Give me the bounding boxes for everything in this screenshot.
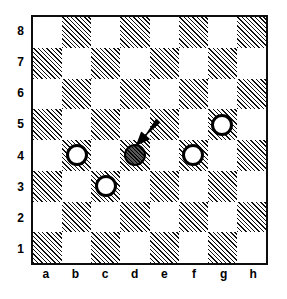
rank-label-1: 1	[12, 234, 29, 265]
board-square-c6[interactable]	[91, 79, 120, 110]
board-square-c5[interactable]	[91, 109, 120, 140]
board-square-b5[interactable]	[62, 109, 91, 140]
checkerboard	[31, 15, 268, 265]
board-square-c2[interactable]	[91, 202, 120, 233]
board-square-e3[interactable]	[150, 171, 179, 202]
piece-white-g5[interactable]	[211, 114, 233, 136]
board-square-f2[interactable]	[179, 202, 208, 233]
file-label-c: c	[90, 268, 120, 288]
board-square-a3[interactable]	[33, 171, 62, 202]
checkers-diagram: 8 7 6 5 4 3 2 1 a b c d e f g h	[0, 0, 287, 299]
board-square-a7[interactable]	[33, 48, 62, 79]
rank-label-3: 3	[12, 171, 29, 202]
board-square-e8[interactable]	[150, 17, 179, 48]
board-square-b6[interactable]	[62, 79, 91, 110]
rank-label-8: 8	[12, 15, 29, 46]
board-square-h2[interactable]	[237, 202, 266, 233]
board-square-d2[interactable]	[120, 202, 149, 233]
board-square-g6[interactable]	[208, 79, 237, 110]
board-square-e6[interactable]	[150, 79, 179, 110]
board-square-a8[interactable]	[33, 17, 62, 48]
piece-white-b4[interactable]	[66, 144, 88, 166]
board-square-c3[interactable]	[91, 171, 120, 202]
board-square-d3[interactable]	[120, 171, 149, 202]
board-square-f8[interactable]	[179, 17, 208, 48]
board-square-h1[interactable]	[237, 232, 266, 263]
board-square-f5[interactable]	[179, 109, 208, 140]
board-square-c8[interactable]	[91, 17, 120, 48]
piece-white-c3[interactable]	[95, 175, 117, 197]
board-square-d6[interactable]	[120, 79, 149, 110]
board-square-d1[interactable]	[120, 232, 149, 263]
piece-white-f4[interactable]	[182, 144, 204, 166]
file-label-f: f	[179, 268, 209, 288]
rank-labels: 8 7 6 5 4 3 2 1	[12, 15, 29, 265]
file-label-g: g	[209, 268, 239, 288]
board-square-h5[interactable]	[237, 109, 266, 140]
rank-label-5: 5	[12, 109, 29, 140]
file-labels: a b c d e f g h	[31, 268, 268, 288]
board-square-d5[interactable]	[120, 109, 149, 140]
board-square-h8[interactable]	[237, 17, 266, 48]
board-square-g3[interactable]	[208, 171, 237, 202]
board-square-f7[interactable]	[179, 48, 208, 79]
board-square-a6[interactable]	[33, 79, 62, 110]
board-square-d7[interactable]	[120, 48, 149, 79]
board-square-a4[interactable]	[33, 140, 62, 171]
board-square-d8[interactable]	[120, 17, 149, 48]
piece-dark-d4[interactable]	[124, 144, 146, 166]
file-label-b: b	[61, 268, 91, 288]
file-label-a: a	[31, 268, 61, 288]
board-square-a2[interactable]	[33, 202, 62, 233]
rank-label-2: 2	[12, 203, 29, 234]
file-label-d: d	[120, 268, 150, 288]
board-square-g4[interactable]	[208, 140, 237, 171]
board-square-g2[interactable]	[208, 202, 237, 233]
file-label-e: e	[150, 268, 180, 288]
board-square-b2[interactable]	[62, 202, 91, 233]
board-square-e7[interactable]	[150, 48, 179, 79]
board-square-g8[interactable]	[208, 17, 237, 48]
board-square-f1[interactable]	[179, 232, 208, 263]
board-square-g5[interactable]	[208, 109, 237, 140]
board-square-e2[interactable]	[150, 202, 179, 233]
board-square-b1[interactable]	[62, 232, 91, 263]
board-square-e1[interactable]	[150, 232, 179, 263]
board-squares	[33, 17, 266, 263]
board-square-c1[interactable]	[91, 232, 120, 263]
rank-label-4: 4	[12, 140, 29, 171]
rank-label-7: 7	[12, 46, 29, 77]
board-square-d4[interactable]	[120, 140, 149, 171]
board-square-c7[interactable]	[91, 48, 120, 79]
rank-label-6: 6	[12, 78, 29, 109]
board-square-g1[interactable]	[208, 232, 237, 263]
board-square-c4[interactable]	[91, 140, 120, 171]
board-square-h3[interactable]	[237, 171, 266, 202]
board-square-a1[interactable]	[33, 232, 62, 263]
board-square-h7[interactable]	[237, 48, 266, 79]
board-square-b7[interactable]	[62, 48, 91, 79]
board-square-b3[interactable]	[62, 171, 91, 202]
board-square-f4[interactable]	[179, 140, 208, 171]
board-square-a5[interactable]	[33, 109, 62, 140]
board-square-h6[interactable]	[237, 79, 266, 110]
board-square-b4[interactable]	[62, 140, 91, 171]
board-square-e4[interactable]	[150, 140, 179, 171]
file-label-h: h	[238, 268, 268, 288]
board-square-g7[interactable]	[208, 48, 237, 79]
board-square-b8[interactable]	[62, 17, 91, 48]
board-square-f3[interactable]	[179, 171, 208, 202]
board-square-h4[interactable]	[237, 140, 266, 171]
board-square-e5[interactable]	[150, 109, 179, 140]
board-square-f6[interactable]	[179, 79, 208, 110]
